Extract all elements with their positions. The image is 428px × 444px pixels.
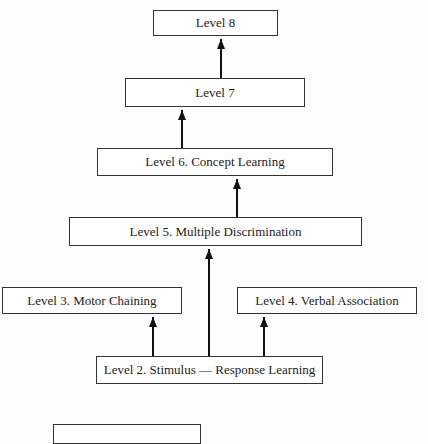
level-4-box: Level 4. Verbal Association: [237, 287, 417, 314]
level-8-box: Level 8: [153, 10, 278, 36]
level-2-box: Level 2. Stimulus — Response Learning: [96, 356, 323, 384]
level-3-box: Level 3. Motor Chaining: [2, 287, 182, 314]
level-7-label: Level 7: [195, 85, 234, 101]
level-6-box: Level 6. Concept Learning: [97, 148, 333, 176]
level-5-label: Level 5. Multiple Discrimination: [130, 224, 302, 240]
level-7-box: Level 7: [125, 78, 305, 107]
level-2-label: Level 2. Stimulus — Response Learning: [104, 362, 316, 378]
level-4-label: Level 4. Verbal Association: [255, 293, 398, 309]
level-1-box: [53, 424, 201, 444]
level-6-label: Level 6. Concept Learning: [145, 154, 284, 170]
level-8-label: Level 8: [196, 15, 235, 31]
level-3-label: Level 3. Motor Chaining: [27, 293, 156, 309]
level-5-box: Level 5. Multiple Discrimination: [69, 217, 362, 246]
